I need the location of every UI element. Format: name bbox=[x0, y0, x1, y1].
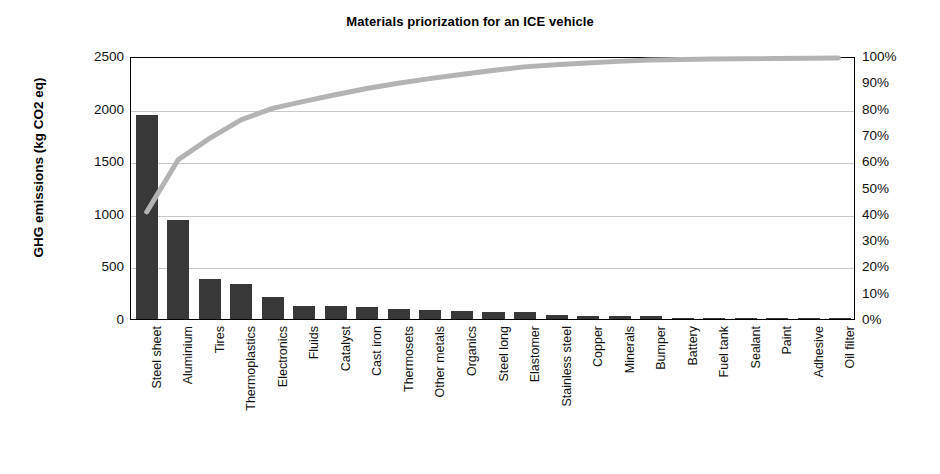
y2-axis-tick-label: 0% bbox=[862, 313, 922, 327]
pareto-chart: Materials priorization for an ICE vehicl… bbox=[0, 0, 940, 474]
x-axis-tick-label: Fluids bbox=[308, 326, 321, 466]
x-axis-tick-label: Thermosets bbox=[403, 326, 416, 466]
x-axis-tick-label: Elastomer bbox=[529, 326, 542, 466]
plot-area bbox=[130, 57, 855, 320]
y-axis-title: GHG emissions (kg CO2 eq) bbox=[31, 38, 46, 298]
x-axis-tick-label: Aluminium bbox=[182, 326, 195, 466]
x-axis-tick-label: Electronics bbox=[277, 326, 290, 466]
x-axis-tick-label: Adhesive bbox=[813, 326, 826, 466]
x-axis-tick-label: Bumper bbox=[655, 326, 668, 466]
y2-axis-tick-label: 10% bbox=[862, 287, 922, 301]
x-axis-tick-label: Fuel tank bbox=[718, 326, 731, 466]
y2-axis-tick-label: 20% bbox=[862, 260, 922, 274]
y-axis-left-ticks: 25002000150010005000 bbox=[68, 0, 124, 474]
x-axis-category-labels: Steel sheetAluminiumTiresThermoplasticsE… bbox=[130, 326, 855, 474]
y-axis-tick-label: 1000 bbox=[74, 208, 124, 222]
x-axis-tick-label: Paint bbox=[781, 326, 794, 466]
x-axis-tick-label: Other metals bbox=[434, 326, 447, 466]
y-axis-tick-label: 500 bbox=[74, 260, 124, 274]
x-axis-tick-label: Minerals bbox=[624, 326, 637, 466]
x-axis-tick-label: Steel sheet bbox=[151, 326, 164, 466]
y-axis-right-ticks: 100%90%80%70%60%50%40%30%20%10%0% bbox=[862, 0, 922, 474]
x-axis-tick-label: Thermoplastics bbox=[245, 326, 258, 466]
x-axis-tick-label: Tires bbox=[214, 326, 227, 466]
y2-axis-tick-label: 40% bbox=[862, 208, 922, 222]
x-axis-tick-label: Cast iron bbox=[371, 326, 384, 466]
x-axis-tick-label: Oil filter bbox=[844, 326, 857, 466]
y2-axis-tick-label: 80% bbox=[862, 103, 922, 117]
y-axis-tick-label: 2500 bbox=[74, 50, 124, 64]
x-axis-tick-label: Steel long bbox=[498, 326, 511, 466]
y2-axis-tick-label: 100% bbox=[862, 50, 922, 64]
x-axis-tick-label: Copper bbox=[592, 326, 605, 466]
chart-title: Materials priorization for an ICE vehicl… bbox=[0, 14, 940, 29]
cumulative-line-series bbox=[131, 58, 854, 319]
x-axis-tick-label: Stainless steel bbox=[561, 326, 574, 466]
y2-axis-tick-label: 50% bbox=[862, 182, 922, 196]
cumulative-line bbox=[147, 58, 839, 212]
y2-axis-tick-label: 90% bbox=[862, 76, 922, 90]
y2-axis-tick-label: 70% bbox=[862, 129, 922, 143]
y-axis-tick-label: 1500 bbox=[74, 155, 124, 169]
x-axis-tick-label: Catalyst bbox=[340, 326, 353, 466]
x-axis-tick-label: Organics bbox=[466, 326, 479, 466]
y2-axis-tick-label: 30% bbox=[862, 234, 922, 248]
y-axis-tick-label: 2000 bbox=[74, 103, 124, 117]
y2-axis-tick-label: 60% bbox=[862, 155, 922, 169]
y-axis-tick-label: 0 bbox=[74, 313, 124, 327]
x-axis-tick-label: Battery bbox=[687, 326, 700, 466]
x-axis-tick-label: Sealant bbox=[750, 326, 763, 466]
